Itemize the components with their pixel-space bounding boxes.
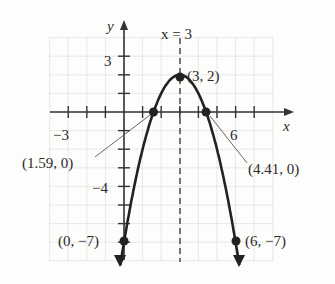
y-axis-arrow-icon [120, 20, 128, 30]
tick-label-3: 3 [104, 53, 112, 69]
x-axis-label: x [282, 118, 290, 134]
y-intercept-label: (0, −7) [58, 233, 99, 250]
symmetry-label: x = 3 [161, 26, 192, 42]
tick-label-neg4: −4 [92, 180, 108, 196]
root-right-label: (4.41, 0) [248, 161, 299, 178]
x-axis-arrow-icon [284, 108, 294, 116]
parabola-chart: y x x = 3 −3 6 3 −4 (3, 2) (1.59, 0) (4.… [0, 0, 335, 284]
grid [50, 38, 273, 261]
tick-label-6: 6 [230, 127, 238, 143]
root-left-label: (1.59, 0) [22, 155, 73, 172]
y-axis-label: y [105, 18, 114, 34]
tick-label-neg3: −3 [53, 127, 69, 143]
right-arrow-icon [233, 255, 245, 267]
point-6-label: (6, −7) [245, 233, 286, 250]
vertex-label: (3, 2) [187, 68, 220, 85]
